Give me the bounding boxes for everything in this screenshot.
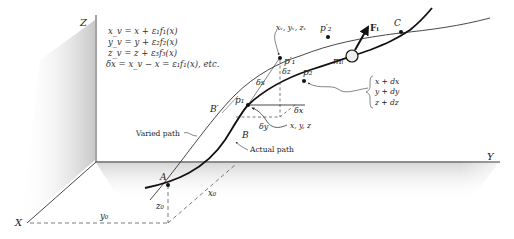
label-x0: x₀ <box>208 188 217 198</box>
point-p1-prime <box>278 56 282 60</box>
point-C <box>399 30 403 34</box>
label-varied-coords: xᵥ, yᵥ, zᵥ <box>276 23 307 32</box>
label-mass: mᵢ <box>333 56 344 66</box>
label-delta-x: δx <box>294 106 304 115</box>
point-p1 <box>246 103 250 107</box>
label-p2: p₂ <box>303 67 313 77</box>
x-axis-label: X <box>14 217 23 228</box>
label-B-prime: B′ <box>209 104 219 114</box>
equation-z: z_v = z + ε₃f₃(x) <box>107 48 177 59</box>
label-delta-z: δz <box>282 67 292 76</box>
label-actual-coords: x, y, z <box>290 121 311 130</box>
varied-coords-leader <box>275 30 279 55</box>
label-p1: p₁ <box>235 95 244 105</box>
label-neighbor-x: x + dx <box>375 77 400 86</box>
label-C: C <box>394 18 401 28</box>
force-arrow <box>355 27 368 50</box>
label-neighbor-y: y + dy <box>374 87 400 96</box>
label-delta-y: δy <box>259 122 269 131</box>
label-varied-path: Varied path <box>135 129 180 138</box>
point-A <box>166 183 170 187</box>
point-p2 <box>302 79 306 83</box>
actual-path-leader <box>236 142 248 150</box>
label-p2-prime: p′₂ <box>320 23 332 33</box>
label-actual-path: Actual path <box>249 145 294 154</box>
equation-y: y_v = y + ε₂f₂(x) <box>107 37 178 48</box>
label-A: A <box>159 172 167 182</box>
neighbor-coords-leader <box>308 83 368 92</box>
neighbor-coords-brace <box>366 76 373 108</box>
mass-particle <box>346 50 358 62</box>
label-p1-prime: p′₁ <box>284 56 295 66</box>
label-neighbor-z: z + dz <box>374 98 399 107</box>
z-axis-label: Z <box>79 17 88 28</box>
label-force: Fᵢ <box>370 23 379 33</box>
equation-x: x_v = x + ε₁f₁(x) <box>108 26 178 37</box>
equations-block: x_v = x + ε₁f₁(x) y_v = y + ε₂f₂(x) z_v … <box>106 26 219 70</box>
actual-coords-leader <box>252 108 287 127</box>
label-z0: z₀ <box>155 201 164 211</box>
variational-path-diagram: Z Y X x_v = x + ε₁f₁(x) y_v = y + ε₂f₂(x… <box>0 0 514 239</box>
equation-delta: δx = x_v − x = ε₁f₁(x), etc. <box>106 59 219 70</box>
varied-path-leader <box>184 133 197 136</box>
wall-shading <box>20 20 95 225</box>
label-B: B <box>241 130 249 140</box>
label-delta-s: δs <box>256 78 265 87</box>
point-p2-prime <box>326 35 330 39</box>
label-y0: y₀ <box>99 211 109 221</box>
